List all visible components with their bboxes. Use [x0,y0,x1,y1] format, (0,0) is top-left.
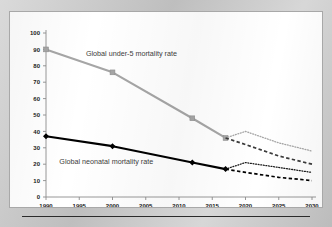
mortality-rate-line-chart: 0102030405060708090100199019952000200520… [10,12,322,207]
x-axis-tick-label: 2025 [272,203,286,207]
y-axis-tick-label: 50 [33,112,40,118]
data-point-marker [190,116,195,121]
x-axis-tick-label: 2010 [172,203,186,207]
y-axis-tick-label: 60 [33,96,40,102]
x-axis-tick-label: 2005 [139,203,153,207]
y-axis-tick-label: 20 [33,161,40,167]
data-point-marker [43,133,49,139]
x-axis-tick-label: 2015 [206,203,220,207]
x-axis-tick-label: 2020 [239,203,253,207]
y-axis-tick-label: 100 [30,30,41,36]
y-axis-tick-label: 70 [33,79,40,85]
y-axis-tick-label: 30 [33,145,40,151]
under5-label: Global under-5 mortality rate [86,49,177,58]
y-axis-tick-label: 90 [33,47,40,53]
data-point-marker [110,70,115,75]
chart-screenshot: 0102030405060708090100199019952000200520… [0,0,332,227]
chart-card: 0102030405060708090100199019952000200520… [9,11,323,208]
neonatal-label: Global neonatal mortality rate [59,157,153,166]
data-point-marker [189,160,195,166]
y-axis-tick-label: 40 [33,129,40,135]
y-axis-tick-label: 80 [33,63,40,69]
data-point-marker [110,143,116,149]
x-axis-tick-label: 1995 [73,203,87,207]
y-axis-tick-label: 0 [37,194,41,200]
x-axis-tick-label: 2000 [106,203,120,207]
footer-divider-rule [22,216,310,217]
x-axis-tick-label: 1990 [39,203,53,207]
data-point-marker [44,47,49,52]
x-axis-tick-label: 2030 [305,203,319,207]
series-line-0 [46,49,226,138]
series-line-3 [226,138,312,164]
series-line-2 [226,131,312,151]
y-axis-tick-label: 10 [33,178,40,184]
